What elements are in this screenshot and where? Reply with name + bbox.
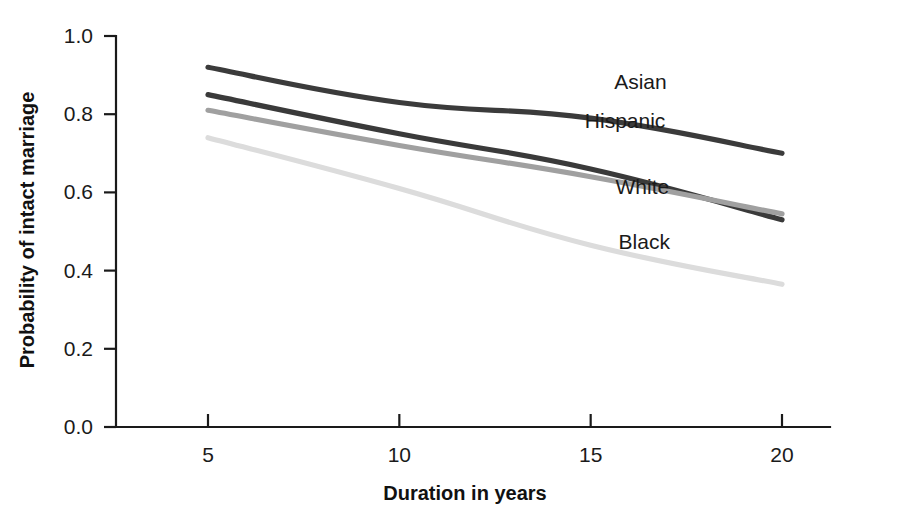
y-axis-group: 0.00.20.40.60.81.0 [64, 24, 116, 438]
y-tick-labels: 0.00.20.40.60.81.0 [64, 24, 94, 438]
y-tick-label: 0.0 [64, 415, 93, 438]
y-tick-label: 0.2 [64, 337, 93, 360]
series-label-black: Black [619, 230, 671, 253]
series-label-hispanic: Hispanic [585, 109, 666, 132]
series-labels-group: AsianHispanicWhiteBlack [585, 70, 671, 253]
y-axis-title: Probability of intact marriage [16, 92, 38, 369]
y-tick-marks [104, 36, 116, 427]
series-lines-group [208, 67, 782, 284]
x-tick-marks [208, 414, 782, 427]
x-tick-label: 10 [388, 443, 411, 466]
line-chart-canvas: 0.00.20.40.60.81.0 5101520 AsianHispanic… [0, 0, 901, 520]
x-tick-label: 15 [579, 443, 602, 466]
x-tick-label: 5 [202, 443, 214, 466]
y-tick-label: 0.6 [64, 180, 93, 203]
y-tick-label: 0.4 [64, 259, 94, 282]
series-label-white: White [615, 175, 669, 198]
y-tick-label: 0.8 [64, 102, 93, 125]
x-axis-group: 5101520 [116, 414, 830, 466]
x-tick-labels: 5101520 [202, 443, 794, 466]
y-tick-label: 1.0 [64, 24, 93, 47]
x-axis-title: Duration in years [383, 482, 546, 504]
chart-figure: 0.00.20.40.60.81.0 5101520 AsianHispanic… [0, 0, 901, 520]
series-line-hispanic [208, 95, 782, 220]
series-label-asian: Asian [614, 70, 667, 93]
x-tick-label: 20 [770, 443, 793, 466]
